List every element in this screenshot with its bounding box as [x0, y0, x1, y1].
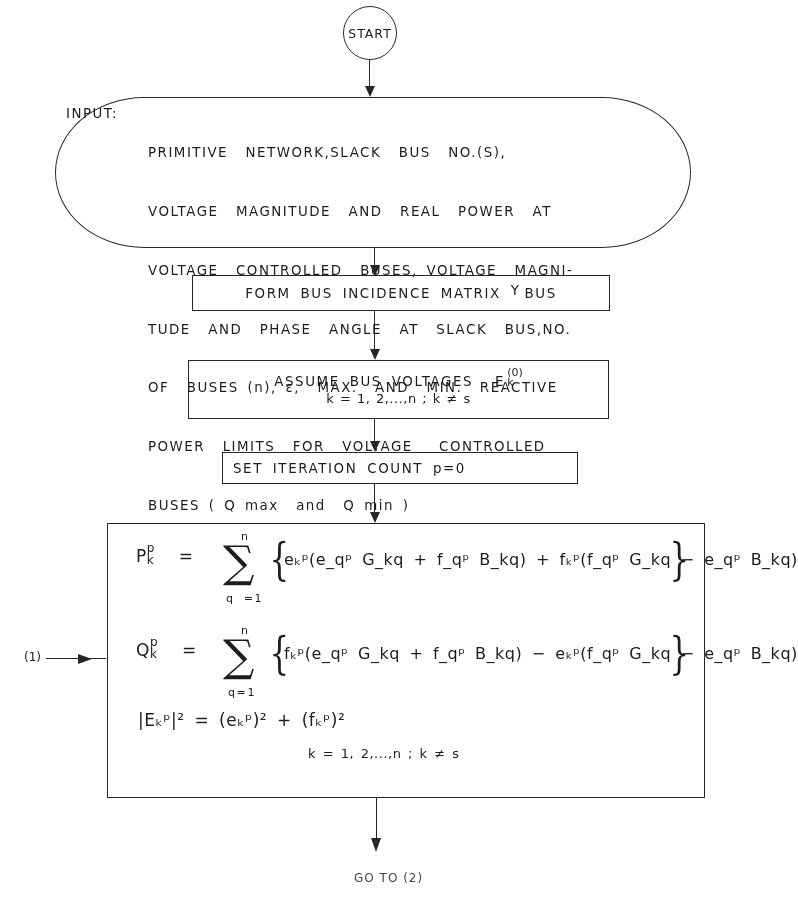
arrowhead-icon [365, 86, 375, 97]
connector-1-label: (1) [24, 650, 41, 664]
arrowhead-icon [78, 654, 92, 664]
input-line: TUDE AND PHASE ANGLE AT SLACK BUS,NO. [148, 320, 573, 340]
voltage-symbol: E [495, 374, 505, 389]
assume-voltages-text: ASSUME BUS VOLTAGES [274, 374, 473, 389]
p-lhs: P [136, 546, 147, 566]
start-terminal: START [343, 6, 397, 60]
connector-arrow [376, 798, 377, 840]
set-iteration-text: SET ITERATION COUNT p=0 [233, 461, 466, 476]
connector-line [46, 658, 106, 659]
brace-close-icon: } [669, 538, 690, 582]
input-line: PRIMITIVE NETWORK,SLACK BUS NO.(S), [148, 143, 573, 163]
connector-arrow [369, 60, 370, 88]
magnitude-equation: |Eₖᵖ|² = (eₖᵖ)² + (fₖᵖ)² [138, 710, 345, 730]
brace-close-icon: } [669, 632, 690, 676]
q-sum-lower: q=1 [228, 686, 256, 699]
assume-voltages-line: ASSUME BUS VOLTAGES E (0) k [274, 374, 523, 389]
start-label: START [348, 26, 392, 41]
equations-process: Ppk = n ∑ q =1 { eₖᵖ(e_qᵖ G_kq + f_qᵖ B_… [107, 523, 705, 798]
input-lines: PRIMITIVE NETWORK,SLACK BUS NO.(S), VOLT… [148, 104, 573, 555]
arrowhead-icon [371, 838, 381, 852]
arrowhead-icon [370, 512, 380, 523]
p-rhs: eₖᵖ(e_qᵖ G_kq + f_qᵖ B_kq) + fₖᵖ(f_qᵖ G_… [284, 550, 798, 569]
q-rhs: fₖᵖ(e_qᵖ G_kq + f_qᵖ B_kq) − eₖᵖ(f_qᵖ G_… [284, 644, 798, 663]
arrowhead-icon [370, 441, 380, 452]
q-lhs: Q [136, 640, 150, 660]
connector-arrow [374, 484, 375, 514]
q-equation: Qpk = [136, 640, 197, 660]
assume-voltages-process: ASSUME BUS VOLTAGES E (0) k k = 1, 2,...… [188, 360, 609, 419]
assume-voltages-condition: k = 1, 2,...,n ; k ≠ s [326, 391, 471, 406]
q-lhs-sub: k [150, 648, 158, 660]
form-ybus-text: FORM BUS INCIDENCE MATRIX [245, 286, 501, 301]
voltage-subscript: k [507, 378, 523, 388]
connector-arrow [374, 419, 375, 443]
p-lhs-sub: k [147, 554, 155, 566]
p-equation: Ppk = [136, 546, 194, 566]
goto-label: GO TO (2) [354, 871, 423, 885]
connector-arrow [374, 311, 375, 351]
sigma-icon: ∑ [223, 634, 256, 678]
ybus-symbol: Y [511, 283, 521, 298]
arrowhead-icon [370, 349, 380, 360]
equations-condition: k = 1, 2,...,n ; k ≠ s [308, 746, 460, 761]
sigma-icon: ∑ [223, 540, 256, 584]
p-sum-lower: q =1 [226, 592, 263, 605]
ybus-subscript: BUS [525, 286, 557, 301]
form-ybus-process: FORM BUS INCIDENCE MATRIX Y BUS [192, 275, 610, 311]
input-label: INPUT: [66, 104, 118, 124]
set-iteration-process: SET ITERATION COUNT p=0 [222, 452, 578, 484]
input-line: BUSES ( Q max and Q min ) [148, 496, 573, 516]
input-line: VOLTAGE MAGNITUDE AND REAL POWER AT [148, 202, 573, 222]
